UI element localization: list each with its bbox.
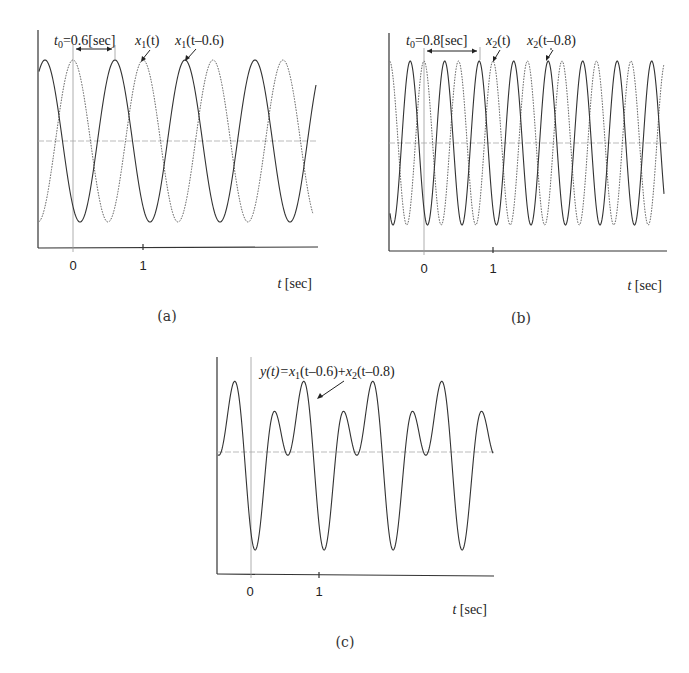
x2-shifted-label: x2(t–0.8) bbox=[526, 33, 576, 50]
tick-label-1: 1 bbox=[139, 258, 146, 273]
figure: t0=0.6[sec] x1(t) x1(t–0.6) 0 1 t [sec] … bbox=[0, 0, 689, 673]
tick-label-1: 1 bbox=[489, 261, 496, 276]
t0-annotation: t0=0.8[sec] bbox=[406, 33, 468, 50]
tick-label-1: 1 bbox=[315, 584, 322, 599]
panel-c: y(t)=x1(t–0.6)+x2(t–0.8) 0 1 t [sec] (c) bbox=[217, 357, 494, 650]
x1-shifted-label: x1(t–0.6) bbox=[174, 33, 224, 50]
caption-c: (c) bbox=[336, 634, 355, 650]
x-axis-label: t [sec] bbox=[627, 278, 662, 293]
x-axis bbox=[217, 574, 494, 576]
tick-label-0: 0 bbox=[420, 261, 427, 276]
panel-b: t0=0.8[sec] x2(t) x2(t–0.8) 0 1 t [sec] … bbox=[389, 33, 667, 326]
x-axis-label: t [sec] bbox=[452, 602, 487, 617]
x-axis-label: t [sec] bbox=[277, 276, 312, 291]
panel-a: t0=0.6[sec] x1(t) x1(t–0.6) 0 1 t [sec] … bbox=[38, 30, 318, 324]
caption-b: (b) bbox=[511, 310, 531, 326]
caption-a: (a) bbox=[157, 308, 176, 324]
t0-annotation: t0=0.6[sec] bbox=[54, 33, 116, 50]
tick-label-0: 0 bbox=[69, 258, 76, 273]
x2-label: x2(t) bbox=[485, 33, 511, 50]
x1-label: x1(t) bbox=[134, 33, 160, 50]
y-pointer bbox=[322, 381, 344, 396]
tick-label-0: 0 bbox=[246, 584, 253, 599]
x-axis bbox=[38, 247, 318, 248]
series-y-sum bbox=[218, 381, 493, 550]
y-sum-label: y(t)=x1(t–0.6)+x2(t–0.8) bbox=[258, 364, 395, 381]
y-pointer-head bbox=[317, 393, 323, 399]
x1-shifted-pointer bbox=[188, 49, 196, 58]
